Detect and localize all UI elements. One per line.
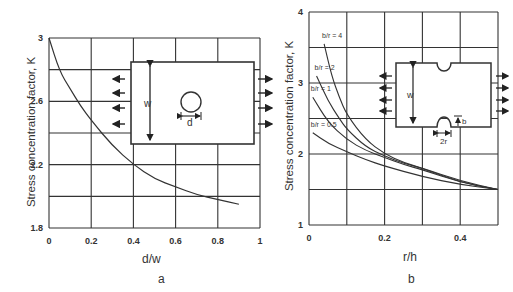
chart-b-series-labels: b/r = 4b/r = 2b/r = 1b/r = 0.5 xyxy=(311,32,342,128)
svg-text:b/r = 0.5: b/r = 0.5 xyxy=(311,121,337,128)
label-w: w xyxy=(406,90,414,100)
svg-text:0.4: 0.4 xyxy=(454,233,467,243)
chart-a-caption: a xyxy=(158,272,165,286)
figure-canvas: 00.20.40.60.811.82.22.63 w d xyxy=(0,0,513,292)
svg-text:0: 0 xyxy=(306,233,311,243)
chart-b-xlabel: r/h xyxy=(403,250,417,264)
svg-text:0.8: 0.8 xyxy=(212,236,225,246)
chart-a-ylabel: Stress concentration factor, K xyxy=(25,37,37,227)
svg-text:2: 2 xyxy=(298,149,303,159)
svg-text:b/r = 1: b/r = 1 xyxy=(311,85,331,92)
svg-text:1: 1 xyxy=(298,220,303,230)
svg-text:0.2: 0.2 xyxy=(378,233,391,243)
svg-text:0.6: 0.6 xyxy=(169,236,182,246)
svg-text:3: 3 xyxy=(38,33,43,43)
chart-a: 00.20.40.60.811.82.22.63 w d xyxy=(30,33,272,246)
label-w: w xyxy=(143,98,152,109)
chart-b-ylabel: Stress concentration factor, K xyxy=(283,21,295,211)
chart-a-inset-plate-hole: w d xyxy=(113,62,272,144)
chart-b: 00.20.41234 b/r = 4b/r = 2b/r = 1b/r = 0… xyxy=(298,7,508,243)
chart-a-xlabel: d/w xyxy=(142,252,161,266)
label-b: b xyxy=(462,117,467,126)
chart-b-inset-notched-plate: w 2r b xyxy=(380,63,508,146)
svg-text:3: 3 xyxy=(298,78,303,88)
svg-text:b/r = 4: b/r = 4 xyxy=(322,32,342,39)
svg-text:b/r = 2: b/r = 2 xyxy=(315,64,335,71)
svg-text:1: 1 xyxy=(257,236,262,246)
svg-text:0.4: 0.4 xyxy=(127,236,140,246)
svg-text:0: 0 xyxy=(46,236,51,246)
svg-text:0.2: 0.2 xyxy=(85,236,98,246)
svg-text:4: 4 xyxy=(298,7,303,17)
label-2r: 2r xyxy=(440,137,447,146)
label-d: d xyxy=(187,117,193,128)
chart-b-caption: b xyxy=(408,272,415,286)
load-arrows-left xyxy=(380,76,392,111)
